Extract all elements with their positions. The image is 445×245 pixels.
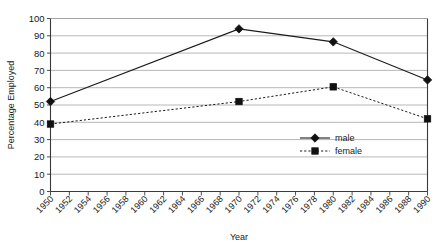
series-group: [46, 25, 431, 128]
chart-canvas: 0102030405060708090100195019521954195619…: [0, 0, 445, 245]
y-axis-tick-label: 20: [34, 151, 45, 162]
legend-marker-male: [311, 134, 319, 142]
y-axis-tick-label: 0: [39, 186, 44, 197]
legend-label-female: female: [335, 146, 362, 156]
line-chart: 0102030405060708090100195019521954195619…: [0, 0, 445, 245]
legend-marker-female: [312, 148, 318, 154]
legend-item-male[interactable]: male: [300, 133, 355, 143]
legend: malefemale: [300, 133, 362, 156]
x-axis-tick-label: 1960: [128, 194, 149, 215]
data-point-male: [329, 38, 337, 46]
y-axis-tick-label: 10: [34, 169, 45, 180]
x-axis-tick-label: 1954: [72, 194, 93, 215]
x-axis-tick-label: 1974: [260, 194, 281, 215]
gridlines-group: [51, 19, 428, 175]
x-axis-tick-label: 1968: [204, 194, 225, 215]
data-point-female: [47, 121, 53, 127]
legend-label-male: male: [335, 133, 355, 143]
data-point-male: [46, 97, 54, 105]
y-axis-tick-label: 40: [34, 117, 45, 128]
x-axis-tick-label: 1966: [185, 194, 206, 215]
data-point-male: [235, 25, 243, 33]
x-axis-tick-label: 1978: [298, 194, 319, 215]
y-axis-tick-label: 60: [34, 82, 45, 93]
data-point-male: [423, 76, 431, 84]
y-axis-tick-label: 90: [34, 30, 45, 41]
x-axis-tick-label: 1970: [223, 194, 244, 215]
data-point-female: [236, 98, 242, 104]
y-axis-tick-label: 100: [29, 13, 45, 24]
x-axis-tick-label: 1986: [373, 194, 394, 215]
x-axis-tick-label: 1950: [34, 194, 55, 215]
y-axis-tick-label: 30: [34, 134, 45, 145]
series-line-male: [51, 29, 428, 102]
data-point-female: [424, 116, 430, 122]
x-axis-tick-label: 1956: [91, 194, 112, 215]
axes-group: 0102030405060708090100195019521954195619…: [6, 13, 432, 242]
x-axis-tick-label: 1988: [392, 194, 413, 215]
x-axis-tick-label: 1984: [355, 194, 376, 215]
x-axis-tick-label: 1958: [110, 194, 131, 215]
x-axis-title: Year: [230, 232, 248, 242]
x-axis-tick-label: 1976: [279, 194, 300, 215]
x-axis-tick-label: 1962: [147, 194, 168, 215]
x-axis-tick-label: 1972: [242, 194, 263, 215]
y-axis-tick-label: 70: [34, 65, 45, 76]
data-point-female: [330, 84, 336, 90]
y-axis-tick-label: 80: [34, 48, 45, 59]
y-axis-tick-label: 50: [34, 99, 45, 110]
series-line-female: [51, 87, 428, 124]
x-axis-tick-label: 1964: [166, 194, 187, 215]
x-axis-tick-label: 1982: [336, 194, 357, 215]
x-axis-tick-label: 1980: [317, 194, 338, 215]
series-female: [47, 84, 430, 128]
x-axis-tick-label: 1952: [53, 194, 74, 215]
y-axis-title: Percentage Employed: [6, 61, 16, 150]
legend-item-female[interactable]: female: [300, 146, 362, 156]
x-axis-tick-label: 1990: [411, 194, 432, 215]
series-male: [46, 25, 431, 106]
